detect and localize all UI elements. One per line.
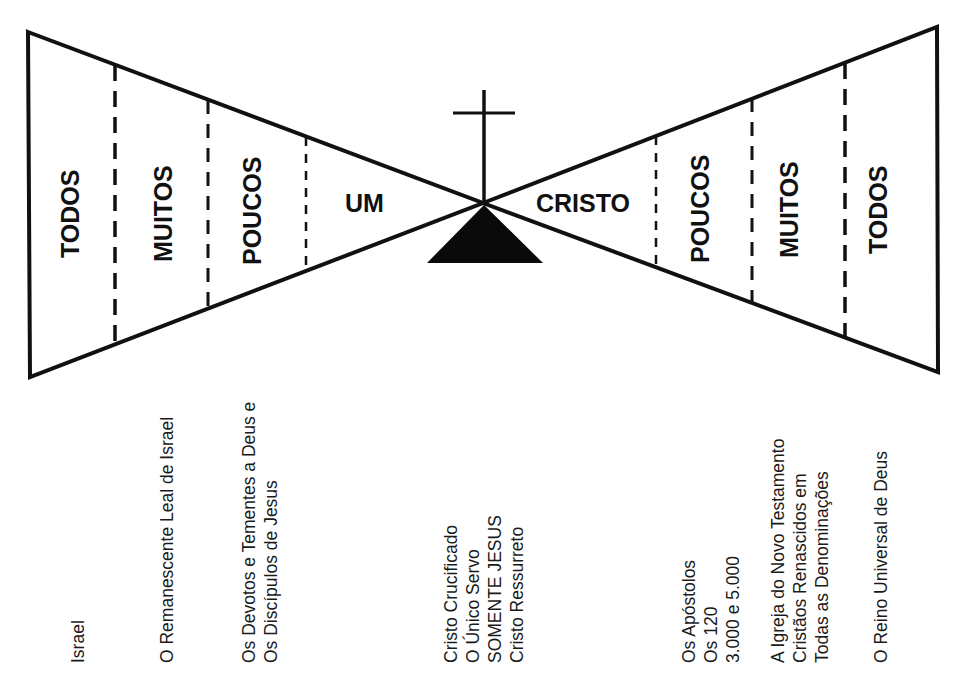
caption-line: Israel (67, 620, 89, 663)
caption-line: O Remanescente Leal de Israel (156, 417, 178, 663)
left-segment-poucos: POUCOS (240, 157, 265, 265)
right-segment-poucos: POUCOS (688, 155, 713, 263)
caption-israel: Israel (67, 620, 89, 663)
left-segment-muitos: MUITOS (151, 165, 176, 262)
caption-line: Os Devotos e Tementes a Deus e (238, 402, 260, 663)
caption-line: Os Apóstolos (678, 556, 700, 663)
caption-line: A Igreja do Novo Testamento (767, 439, 789, 663)
caption-apostolos: Os Apóstolos Os 120 3.000 e 5.000 (678, 556, 744, 663)
caption-line: Cristo Ressurreto (506, 515, 528, 663)
right-segment-cristo: CRISTO (536, 191, 630, 216)
hill-icon (427, 205, 543, 263)
caption-line: O Único Servo (462, 515, 484, 663)
left-segment-um: UM (345, 191, 384, 216)
caption-line: Todas as Denominações (811, 439, 833, 663)
caption-line: Cristãos Renascidos em (789, 439, 811, 663)
right-segment-muitos: MUITOS (777, 161, 802, 258)
caption-line: Cristo Crucificado (440, 515, 462, 663)
caption-line: Os 120 (700, 556, 722, 663)
caption-line: SOMENTE JESUS (484, 515, 506, 663)
caption-cristo: Cristo Crucificado O Único Servo SOMENTE… (440, 515, 528, 663)
caption-reino: O Reino Universal de Deus (870, 451, 892, 663)
caption-remanescente: O Remanescente Leal de Israel (156, 417, 178, 663)
left-segment-todos: TODOS (58, 170, 83, 258)
caption-line: 3.000 e 5.000 (722, 556, 744, 663)
caption-line: Os Discípulos de Jesus (260, 402, 282, 663)
caption-igreja: A Igreja do Novo Testamento Cristãos Ren… (767, 439, 833, 663)
caption-line: O Reino Universal de Deus (870, 451, 892, 663)
caption-devotos: Os Devotos e Tementes a Deus e Os Discíp… (238, 402, 282, 663)
right-segment-todos: TODOS (866, 166, 891, 254)
cross-icon (453, 90, 515, 203)
